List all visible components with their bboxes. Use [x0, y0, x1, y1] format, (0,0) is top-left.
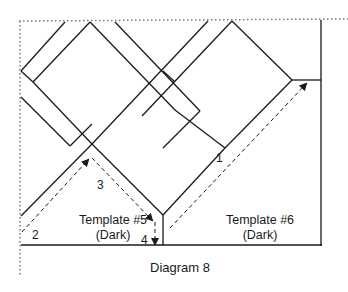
template-6-shade: (Dark) — [205, 228, 315, 243]
template-5-label: Template #5 (Dark) — [58, 213, 168, 243]
template-6-label: Template #6 (Dark) — [205, 213, 315, 243]
step-label-2: 2 — [32, 229, 39, 241]
step-label-1: 1 — [216, 152, 223, 164]
diagram-canvas — [0, 0, 348, 292]
template-5-name: Template #5 — [58, 213, 168, 228]
lattice-lines — [21, 21, 292, 216]
diagram-caption: Diagram 8 — [130, 261, 230, 274]
template-6-name: Template #6 — [205, 213, 315, 228]
template-5-shade: (Dark) — [58, 228, 168, 243]
step-label-3: 3 — [97, 179, 104, 191]
arrow-step-1 — [170, 84, 306, 228]
